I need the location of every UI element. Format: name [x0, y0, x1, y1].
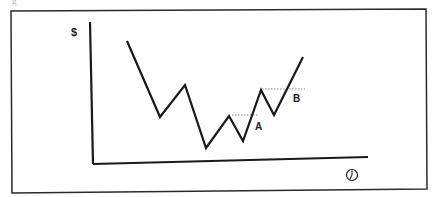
clock-icon: [347, 170, 358, 181]
y-axis-label: $: [71, 26, 77, 38]
chart-canvas: g $ A B: [0, 0, 436, 197]
label-b: B: [293, 93, 300, 104]
label-a: A: [255, 121, 262, 132]
caption-fragment: g: [12, 0, 17, 6]
price-line: [127, 41, 303, 148]
chart-figure: g $ A B: [0, 0, 436, 197]
y-axis: [90, 22, 93, 164]
x-axis: [93, 157, 368, 164]
